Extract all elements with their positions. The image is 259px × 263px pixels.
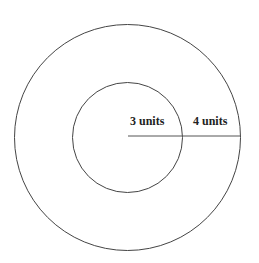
inner-radius-label: 3 units (130, 114, 165, 128)
outer-width-label: 4 units (193, 114, 228, 128)
outer-circle (15, 25, 241, 251)
concentric-circles-diagram: 3 units 4 units (0, 0, 259, 263)
inner-circle (73, 83, 183, 193)
